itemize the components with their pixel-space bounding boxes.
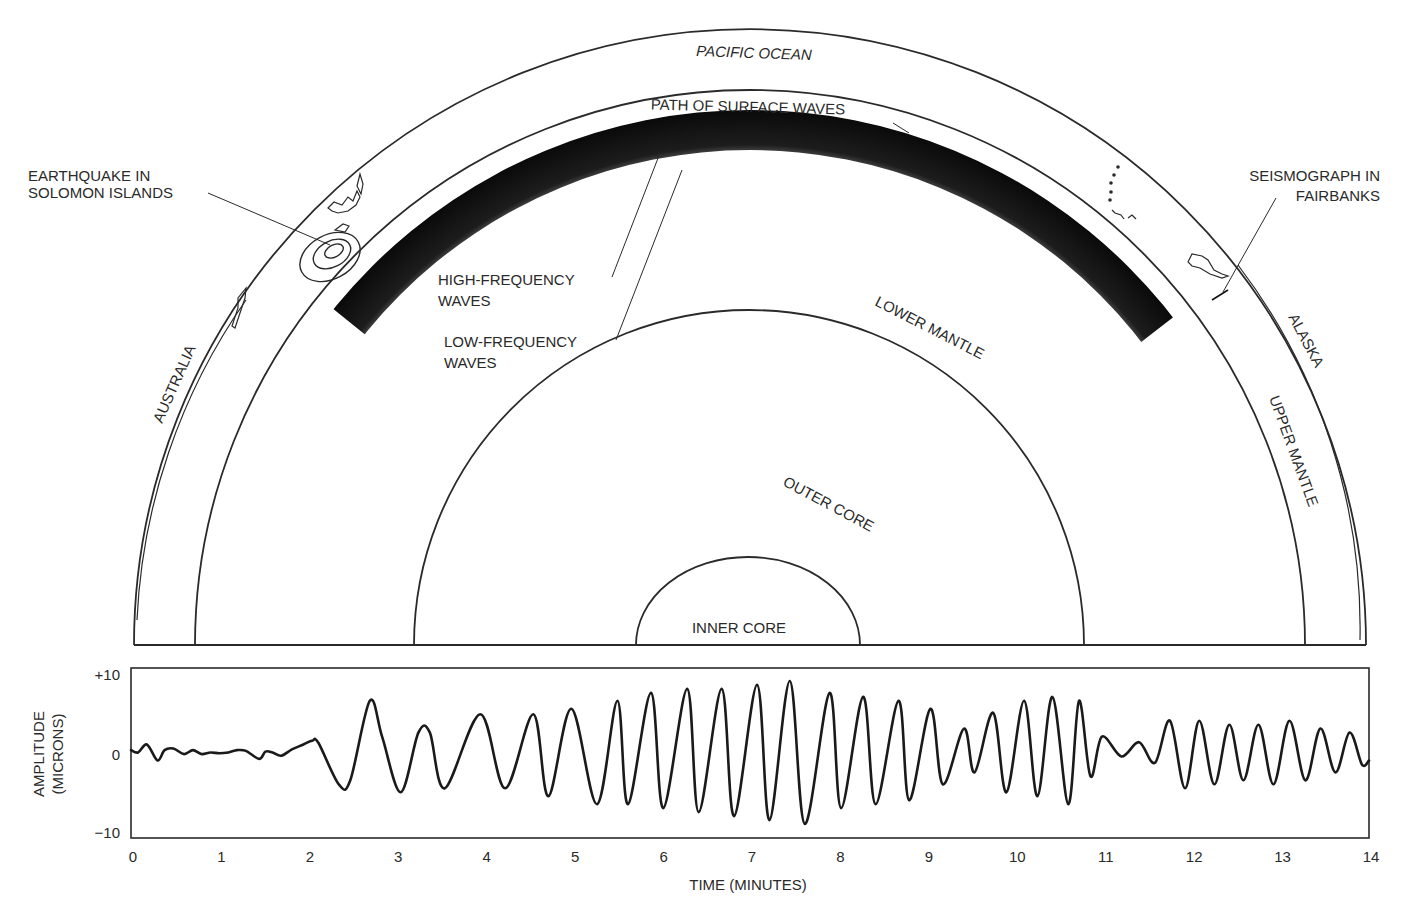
y-axis-label-2: (MICRONS) xyxy=(49,714,66,795)
label-outer-core: OUTER CORE xyxy=(781,473,877,535)
label-high-frequency-2: WAVES xyxy=(438,292,491,309)
plot-frame xyxy=(131,668,1369,838)
low-freq-leader xyxy=(616,170,682,340)
y-axis-label-1: AMPLITUDE xyxy=(30,711,47,797)
label-pacific-ocean: PACIFIC OCEAN xyxy=(696,42,812,63)
label-upper-mantle: UPPER MANTLE xyxy=(1266,393,1322,508)
x-tick-4: 4 xyxy=(483,848,491,865)
earth-cross-section-and-seismogram: PACIFIC OCEAN PATH OF SURFACE WAVES EART… xyxy=(0,0,1404,904)
label-inner-core: INNER CORE xyxy=(692,619,786,636)
label-australia: AUSTRALIA xyxy=(149,342,198,425)
label-lower-mantle: LOWER MANTLE xyxy=(873,293,988,363)
x-tick-3: 3 xyxy=(394,848,402,865)
label-seismograph-2: FAIRBANKS xyxy=(1296,187,1380,204)
x-tick-6: 6 xyxy=(659,848,667,865)
alaska-coast xyxy=(1188,254,1228,278)
x-tick-14: 14 xyxy=(1363,848,1380,865)
y-tick-minus10: −10 xyxy=(95,824,120,841)
label-low-frequency-1: LOW-FREQUENCY xyxy=(444,333,577,350)
x-axis-ticks: 01234567891011121314 xyxy=(129,848,1380,865)
earthquake-epicenter-rings xyxy=(291,223,368,292)
solomon-coast xyxy=(328,191,360,213)
seismogram-trace xyxy=(131,681,1369,824)
seismograph-leader xyxy=(1223,198,1276,292)
x-tick-9: 9 xyxy=(925,848,933,865)
surface-wave-band xyxy=(215,110,1285,645)
label-earthquake-2: SOLOMON ISLANDS xyxy=(28,184,173,201)
x-tick-0: 0 xyxy=(129,848,137,865)
x-axis-label: TIME (MINUTES) xyxy=(689,876,807,893)
x-tick-10: 10 xyxy=(1009,848,1026,865)
seismogram-chart: 01234567891011121314 +10 0 −10 AMPLITUDE… xyxy=(30,666,1379,893)
aleutian-islands xyxy=(1108,165,1120,202)
label-seismograph-1: SEISMOGRAPH IN xyxy=(1249,167,1380,184)
label-high-frequency-1: HIGH-FREQUENCY xyxy=(438,271,575,288)
y-tick-zero: 0 xyxy=(112,746,120,763)
x-tick-13: 13 xyxy=(1274,848,1291,865)
x-tick-5: 5 xyxy=(571,848,579,865)
x-tick-11: 11 xyxy=(1098,848,1114,865)
x-tick-12: 12 xyxy=(1186,848,1203,865)
wave-path-band xyxy=(215,110,1285,645)
label-path-surface-waves: PATH OF SURFACE WAVES xyxy=(651,95,846,117)
x-tick-7: 7 xyxy=(748,848,756,865)
x-tick-8: 8 xyxy=(836,848,844,865)
high-freq-leader xyxy=(612,153,660,277)
figure: PACIFIC OCEAN PATH OF SURFACE WAVES EART… xyxy=(0,0,1404,904)
y-tick-plus10: +10 xyxy=(95,666,120,683)
x-tick-2: 2 xyxy=(306,848,314,865)
outer-core-boundary xyxy=(414,310,1084,645)
earthquake-leader xyxy=(208,193,330,245)
label-earthquake-1: EARTHQUAKE IN xyxy=(28,167,150,184)
upper-mantle-boundary xyxy=(195,90,1305,645)
label-low-frequency-2: WAVES xyxy=(444,354,497,371)
x-tick-1: 1 xyxy=(217,848,225,865)
band-end-fairbanks xyxy=(1212,290,1228,300)
label-alaska: ALASKA xyxy=(1285,310,1327,370)
